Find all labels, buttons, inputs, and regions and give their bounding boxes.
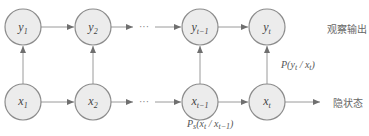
node-x2: x2 xyxy=(75,84,111,120)
node-yt-1: yt−1 xyxy=(182,9,218,45)
node-x1: x1 xyxy=(5,84,41,120)
ellipsis-bottom: ··· xyxy=(139,96,149,107)
transition-prob-label: Ps(xt / xt−1) xyxy=(186,118,234,131)
observation-row-label: 观察输出 xyxy=(327,21,367,36)
node-y1: y1 xyxy=(5,9,41,45)
node-xt: xt xyxy=(249,84,285,120)
node-yt: yt xyxy=(249,9,285,45)
node-xt-1: xt−1 xyxy=(182,84,218,120)
node-y2: y2 xyxy=(75,9,111,45)
hmm-diagram: ··· ··· y1 y2 yt−1 yt x1 x2 xt−1 xt P(yt… xyxy=(0,0,369,136)
hidden-row-label: 隐状态 xyxy=(333,95,363,110)
ellipsis-top: ··· xyxy=(139,21,149,32)
emission-prob-label: P(yt / xt) xyxy=(280,59,316,72)
